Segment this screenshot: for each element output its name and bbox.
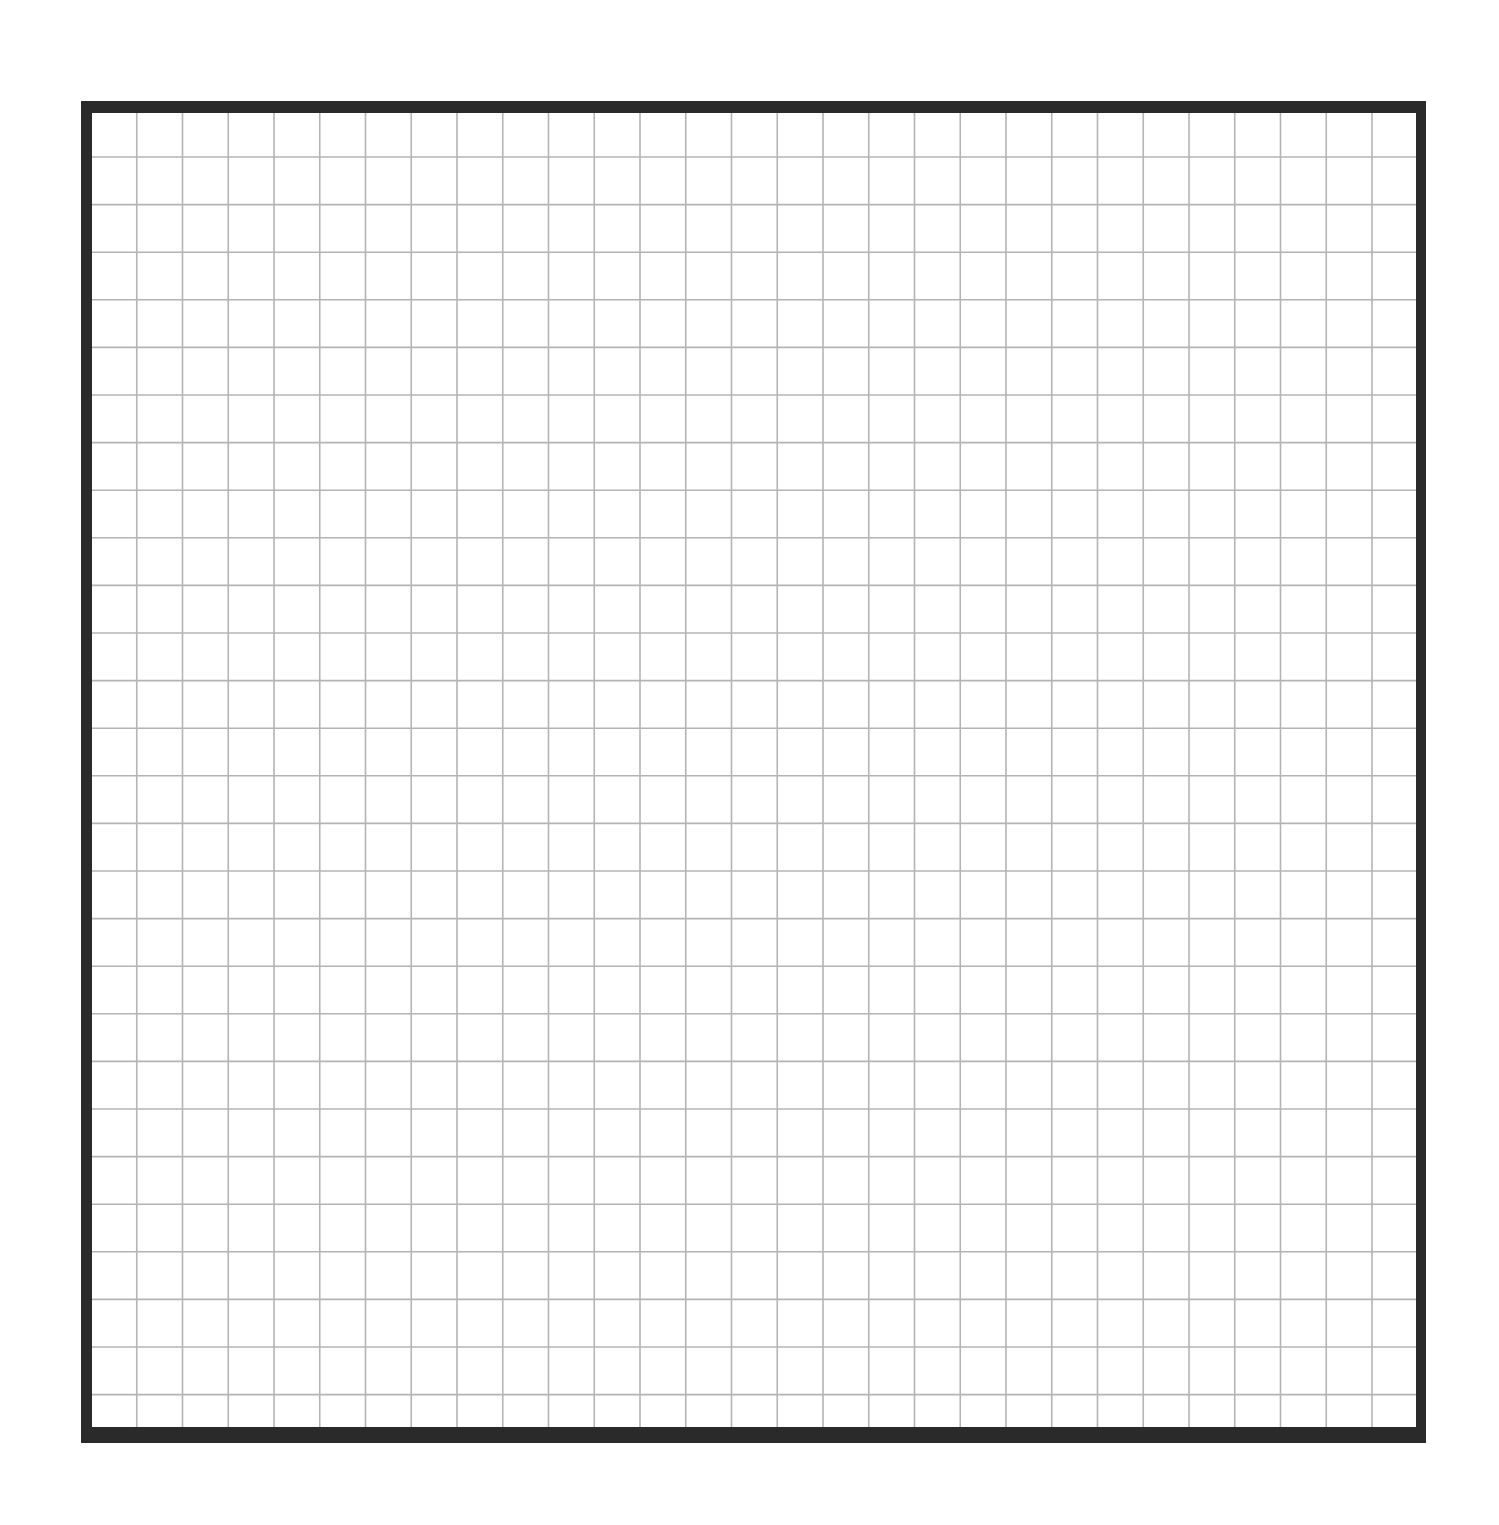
grid-border	[81, 101, 92, 1443]
grid-border	[81, 1427, 1426, 1443]
graph-paper-grid	[81, 101, 1426, 1443]
grid-lines	[81, 101, 1426, 1443]
grid-border	[81, 101, 1426, 113]
grid-border	[1416, 101, 1426, 1443]
